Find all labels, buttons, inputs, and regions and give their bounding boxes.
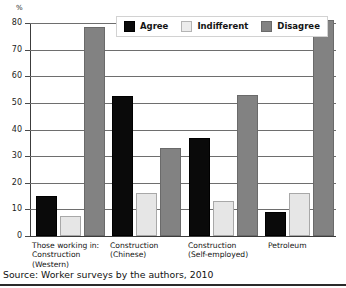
y-axis-tick <box>25 76 30 77</box>
y-axis-tick-label: 50 <box>0 99 22 107</box>
bar-disagree <box>84 27 105 236</box>
legend-label-indifferent: Indifferent <box>197 22 248 31</box>
legend-label-disagree: Disagree <box>277 22 320 31</box>
bar-chart-figure: % 01020304050607080 Agree Indifferent Di… <box>0 0 346 288</box>
source-note: Source: Worker surveys by the authors, 2… <box>3 269 213 280</box>
y-axis-tick <box>25 236 30 237</box>
y-axis-tick-label: 10 <box>0 205 22 213</box>
y-axis-tick <box>25 156 30 157</box>
bar-group <box>183 23 260 236</box>
bar-group <box>107 23 184 236</box>
x-axis-category-label: Construction (Chinese) <box>110 241 158 260</box>
bar-agree <box>112 96 133 236</box>
bar-agree <box>189 138 210 237</box>
y-axis-tick-label: 20 <box>0 179 22 187</box>
y-axis-tick-label: 30 <box>0 152 22 160</box>
bar-indifferent <box>289 193 310 236</box>
legend-entry-agree: Agree <box>124 21 168 32</box>
bar-disagree <box>160 148 181 236</box>
x-axis-category-label: Construction (Self-employed) <box>188 241 248 260</box>
x-axis-category-label: Petroleum <box>268 241 307 250</box>
bar-group <box>30 23 107 236</box>
y-axis-tick-label: 70 <box>0 46 22 54</box>
legend-swatch-agree-icon <box>124 21 135 32</box>
bottom-divider <box>0 284 346 286</box>
x-axis-category-label: Those working in: Construction (Western) <box>32 241 99 269</box>
legend-entry-indifferent: Indifferent <box>181 21 248 32</box>
y-axis-tick-label: 80 <box>0 19 22 27</box>
bar-agree <box>265 212 286 236</box>
bar-indifferent <box>136 193 157 236</box>
y-axis-tick-label: 0 <box>0 232 22 240</box>
y-axis-unit-label: % <box>16 5 23 12</box>
chart-legend: Agree Indifferent Disagree <box>116 16 328 37</box>
y-axis-tick <box>25 103 30 104</box>
x-axis-line <box>30 236 336 237</box>
legend-label-agree: Agree <box>140 22 168 31</box>
bar-agree <box>36 196 57 236</box>
bar-indifferent <box>213 201 234 236</box>
bar-group <box>260 23 337 236</box>
bar-disagree <box>237 95 258 236</box>
y-axis-tick <box>25 23 30 24</box>
y-axis-tick <box>25 50 30 51</box>
legend-swatch-indifferent-icon <box>181 21 192 32</box>
legend-entry-disagree: Disagree <box>261 21 320 32</box>
y-axis-tick <box>25 209 30 210</box>
y-axis-tick <box>25 183 30 184</box>
y-axis-tick-label: 60 <box>0 72 22 80</box>
y-axis-tick-label: 40 <box>0 126 22 134</box>
y-axis-tick <box>25 130 30 131</box>
bar-disagree <box>313 20 334 236</box>
plot-area <box>30 23 336 236</box>
bar-indifferent <box>60 216 81 236</box>
legend-swatch-disagree-icon <box>261 21 272 32</box>
